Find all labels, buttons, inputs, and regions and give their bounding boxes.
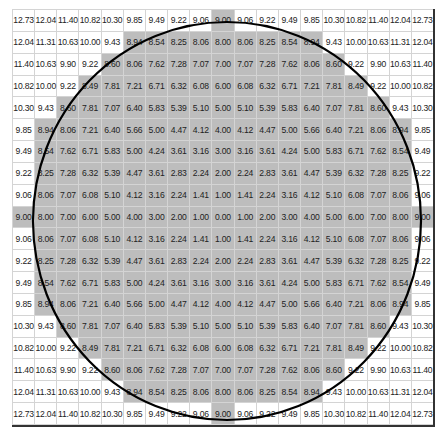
grid-cell: 9.43	[323, 32, 345, 54]
grid-cell: 12.73	[412, 403, 434, 425]
grid-cell: 9.00	[13, 207, 35, 229]
grid-cell: 2.00	[257, 207, 279, 229]
grid-cell: 7.62	[146, 359, 168, 381]
grid-cell: 8.60	[323, 359, 345, 381]
grid-cell: 7.62	[146, 54, 168, 76]
grid-cell: 8.25	[257, 381, 279, 403]
grid-cell: 8.06	[235, 381, 257, 403]
grid-cell: 9.22	[345, 359, 367, 381]
grid-cell: 11.40	[368, 10, 390, 32]
grid-cell: 2.24	[168, 185, 190, 207]
grid-cell: 4.47	[257, 294, 279, 316]
grid-cell: 7.07	[323, 97, 345, 119]
grid-cell: 5.10	[323, 228, 345, 250]
grid-cell: 7.28	[257, 359, 279, 381]
grid-cell: 3.61	[168, 272, 190, 294]
grid-cell: 9.90	[368, 359, 390, 381]
grid-cell: 7.62	[57, 141, 79, 163]
grid-cell: 8.25	[35, 250, 57, 272]
grid-cell: 8.49	[79, 76, 101, 98]
grid-cell: 2.24	[235, 163, 257, 185]
grid-cell: 7.21	[301, 76, 323, 98]
grid-cell: 6.08	[235, 76, 257, 98]
grid-cell: 9.22	[257, 403, 279, 425]
grid-cell: 12.04	[13, 381, 35, 403]
grid-cell: 11.31	[390, 381, 412, 403]
grid-cell: 7.07	[368, 185, 390, 207]
grid-cell: 5.66	[124, 119, 146, 141]
grid-cell: 5.10	[323, 185, 345, 207]
grid-cell: 3.61	[146, 163, 168, 185]
grid-cell: 4.47	[301, 250, 323, 272]
grid-cell: 5.00	[124, 272, 146, 294]
grid-cell: 5.00	[301, 272, 323, 294]
grid-cell: 1.41	[235, 228, 257, 250]
grid-cell: 8.06	[190, 32, 212, 54]
grid-cell: 7.07	[102, 316, 124, 338]
grid-cell: 10.82	[345, 403, 367, 425]
grid-cell: 10.00	[35, 338, 57, 360]
grid-cell: 9.43	[102, 381, 124, 403]
grid-cell: 11.40	[412, 359, 434, 381]
grid-cell: 9.22	[168, 10, 190, 32]
grid-cell: 9.22	[412, 250, 434, 272]
grid-cell: 5.39	[168, 97, 190, 119]
grid-cell: 3.16	[190, 272, 212, 294]
grid-cell: 6.00	[79, 207, 101, 229]
grid-cell: 9.06	[235, 10, 257, 32]
grid-frame-right-border	[433, 9, 435, 427]
grid-cell: 8.06	[35, 228, 57, 250]
grid-cell: 4.47	[168, 119, 190, 141]
grid-cell: 8.60	[57, 316, 79, 338]
grid-cell: 7.62	[57, 272, 79, 294]
grid-cell: 9.43	[390, 97, 412, 119]
grid-cell: 8.25	[390, 250, 412, 272]
grid-cell: 12.04	[35, 403, 57, 425]
grid-cell: 1.00	[212, 228, 234, 250]
grid-cell: 9.22	[13, 250, 35, 272]
grid-cell: 8.54	[390, 141, 412, 163]
grid-cell: 4.12	[190, 294, 212, 316]
grid-cell: 11.31	[390, 32, 412, 54]
grid-cell: 10.63	[57, 32, 79, 54]
grid-cell: 4.24	[279, 141, 301, 163]
grid-cell: 2.24	[235, 250, 257, 272]
grid-cell: 10.82	[13, 338, 35, 360]
grid-cell: 10.82	[79, 10, 101, 32]
grid-cell: 2.24	[190, 163, 212, 185]
grid-cell: 9.22	[57, 338, 79, 360]
grid-cell: 6.08	[345, 185, 367, 207]
grid-cell: 5.10	[190, 316, 212, 338]
grid-cell: 6.40	[301, 97, 323, 119]
grid-cell: 12.73	[13, 403, 35, 425]
grid-cell: 12.04	[412, 32, 434, 54]
grid-cell: 3.16	[235, 272, 257, 294]
grid-cell: 8.54	[35, 272, 57, 294]
grid-cell: 9.90	[368, 54, 390, 76]
grid-cell: 6.32	[168, 76, 190, 98]
grid-cell: 6.00	[212, 338, 234, 360]
grid-cell: 9.22	[368, 76, 390, 98]
grid-cell: 9.22	[257, 10, 279, 32]
grid-cell: 5.39	[102, 163, 124, 185]
grid-cell: 5.39	[323, 163, 345, 185]
grid-cell: 4.12	[301, 228, 323, 250]
grid-cell: 9.90	[57, 54, 79, 76]
grid-cell: 3.00	[146, 207, 168, 229]
grid-cell: 11.40	[368, 403, 390, 425]
grid-cell: 10.63	[390, 359, 412, 381]
grid-cell: 3.61	[257, 272, 279, 294]
grid-cell: 5.10	[102, 185, 124, 207]
grid-cell: 9.90	[57, 359, 79, 381]
grid-cell: 6.32	[257, 76, 279, 98]
grid-cell: 7.21	[79, 294, 101, 316]
grid-cell: 8.06	[301, 359, 323, 381]
grid-cell: 9.06	[412, 185, 434, 207]
grid-cell: 9.00	[212, 403, 234, 425]
grid-cell: 6.40	[102, 119, 124, 141]
grid-cell: 5.66	[124, 294, 146, 316]
grid-cell: 8.06	[124, 359, 146, 381]
grid-cell: 8.25	[390, 163, 412, 185]
grid-cell: 5.00	[146, 119, 168, 141]
grid-cell: 6.32	[79, 163, 101, 185]
